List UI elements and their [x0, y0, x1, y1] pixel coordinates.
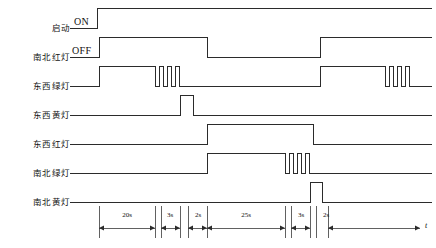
waveform-ns-green	[70, 153, 432, 173]
signal-label-ns-yellow: 南北黄灯	[33, 198, 70, 207]
timing-diagram: 启动 南北红灯 东西绿灯 东西黄灯 东西红灯 南北绿灯 南北黄灯 ON OFF …	[0, 0, 436, 248]
time-axis-group	[99, 206, 420, 238]
signal-label-ns-red: 南北红灯	[33, 53, 70, 62]
waveform-group	[70, 8, 432, 202]
signal-label-ew-yellow: 东西黄灯	[33, 111, 70, 120]
waveform-ew-green	[70, 66, 432, 86]
segment-label-3s-1: 3s	[158, 212, 182, 219]
segment-arrow-right-2	[202, 225, 207, 230]
segment-arrow-right-3	[280, 225, 285, 230]
segment-arrow-right-4	[305, 225, 310, 230]
signal-label-ns-green: 南北绿灯	[33, 169, 70, 178]
waveform-start	[70, 8, 432, 28]
waveform-ns-yellow	[70, 182, 432, 202]
waveform-ew-red	[70, 124, 432, 144]
time-axis-arrow-right	[415, 225, 420, 230]
segment-label-2s-1: 2s	[186, 212, 210, 219]
segment-arrow-left-4	[291, 225, 296, 230]
state-label-off: OFF	[72, 46, 91, 56]
segment-arrow-right-0	[150, 225, 155, 230]
segment-label-2s-2: 2s	[314, 212, 338, 219]
segment-arrow-left-3	[207, 225, 212, 230]
segment-arrow-left-0	[99, 225, 104, 230]
signal-label-ew-red: 东西红灯	[33, 140, 70, 149]
segment-arrow-left-1	[161, 225, 166, 230]
signal-label-start: 启动	[52, 24, 70, 33]
waveform-ew-yellow	[70, 95, 432, 115]
signal-label-ew-green: 东西绿灯	[33, 82, 70, 91]
waveform-canvas	[0, 0, 436, 248]
state-label-on: ON	[74, 17, 89, 27]
segment-label-3s-2: 3s	[289, 212, 313, 219]
segment-arrow-left-2	[188, 225, 193, 230]
segment-label-25s: 25s	[231, 212, 261, 219]
segment-arrow-right-1	[175, 225, 180, 230]
time-axis-arrow-left	[328, 225, 333, 230]
waveform-ns-red	[70, 37, 432, 57]
time-axis-variable: t	[425, 222, 427, 230]
segment-label-20s: 20s	[112, 212, 142, 219]
